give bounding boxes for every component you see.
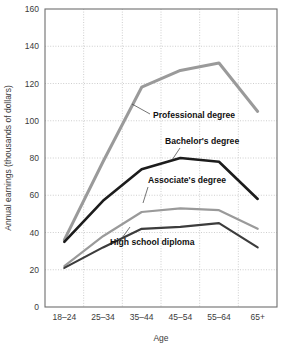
x-tick-label: 55–64 [207, 312, 231, 322]
earnings-by-age-line-chart: 020406080100120140160 18–2425–3435–4445–… [0, 0, 282, 347]
x-tick-label: 65+ [250, 312, 264, 322]
y-tick-label: 20 [30, 265, 40, 275]
leader-line [132, 104, 150, 114]
y-tick-label: 140 [25, 41, 39, 51]
series-label: Bachelor's degree [165, 136, 239, 146]
series-label: Associate's degree [148, 175, 226, 185]
y-tick-label: 120 [25, 79, 39, 89]
y-axis-tick-labels: 020406080100120140160 [25, 4, 39, 312]
y-tick-label: 40 [30, 228, 40, 238]
y-tick-label: 80 [30, 153, 40, 163]
x-tick-label: 35–44 [130, 312, 154, 322]
y-tick-label: 160 [25, 4, 39, 14]
y-axis-title: Annual earnings (thousands of dollars) [3, 85, 13, 231]
x-axis-tick-labels: 18–2425–3435–4445–5455–6465+ [53, 312, 265, 322]
y-tick-label: 60 [30, 190, 40, 200]
series-label: Professional degree [153, 110, 235, 120]
y-tick-label: 100 [25, 116, 39, 126]
y-tick-label: 0 [34, 302, 39, 312]
x-tick-label: 45–54 [169, 312, 193, 322]
chart-container: 020406080100120140160 18–2425–3435–4445–… [0, 0, 282, 347]
x-axis-title: Age [153, 333, 168, 343]
x-tick-label: 18–24 [53, 312, 77, 322]
series-line-professional-degree [64, 63, 257, 240]
gridlines [45, 9, 277, 307]
x-tick-label: 25–34 [91, 312, 115, 322]
series-label: High school diploma [110, 237, 195, 247]
